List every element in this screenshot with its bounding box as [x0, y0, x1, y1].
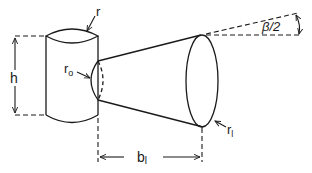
- outer-radius-label: rl: [227, 122, 233, 139]
- cone-bottom-edge: [98, 100, 203, 127]
- beam-angle-label: β/2: [261, 19, 281, 34]
- aperture-front-arc: [91, 61, 98, 100]
- cylinder-radius-callout: r: [87, 4, 101, 31]
- outer-radius-callout: rl: [215, 121, 233, 139]
- cylinder-bottom-curve: [46, 115, 98, 123]
- cone: [98, 35, 218, 127]
- distance-dimension: [98, 118, 202, 162]
- inner-aperture: [91, 61, 103, 100]
- inner-radius-callout: ro: [64, 61, 90, 78]
- inner-radius-label: ro: [64, 61, 73, 78]
- diagram-canvas: h r ro β/2 bl rl: [0, 0, 312, 173]
- cylinder-radius-label: r: [96, 4, 101, 19]
- aperture-back-arc: [98, 61, 103, 100]
- angle-arc-arrow: [296, 15, 300, 34]
- cylinder-top-ellipse: [46, 29, 98, 43]
- distance-label: bl: [137, 149, 147, 166]
- cone-top-edge: [98, 35, 201, 61]
- cone-base-ellipse: [186, 35, 218, 127]
- beam-angle-dimension: [206, 13, 302, 35]
- height-label: h: [10, 70, 18, 86]
